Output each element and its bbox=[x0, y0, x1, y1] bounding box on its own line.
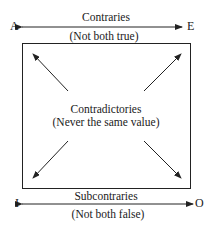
contraries-note: (Not both true) bbox=[70, 30, 139, 43]
corner-label-e: E bbox=[187, 20, 194, 33]
diagonal-arrow-bottom-left bbox=[33, 141, 68, 178]
diagonal-arrow-bottom-right bbox=[144, 141, 181, 178]
contradictories-note: (Never the same value) bbox=[53, 116, 160, 129]
diagonal-arrow-top-right bbox=[144, 54, 181, 91]
diagonal-arrow-top-left bbox=[33, 54, 68, 91]
subcontraries-note: (Not both false) bbox=[72, 208, 145, 221]
contradictories-label: Contradictories bbox=[71, 103, 142, 116]
corner-label-i: I bbox=[15, 197, 19, 210]
contraries-label: Contraries bbox=[82, 11, 130, 24]
corner-label-a: A bbox=[10, 20, 19, 33]
corner-label-o: O bbox=[195, 197, 204, 210]
subcontraries-label: Subcontraries bbox=[74, 190, 137, 203]
